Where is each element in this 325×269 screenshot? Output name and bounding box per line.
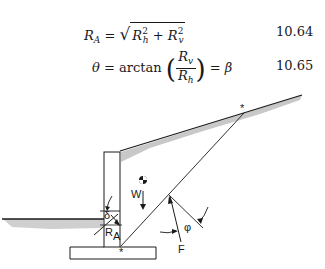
wall-footing bbox=[70, 247, 156, 259]
resultant-label: R bbox=[105, 226, 113, 238]
weight-arrowhead-icon bbox=[140, 204, 146, 210]
resultant-sub-label: A bbox=[113, 230, 121, 242]
crest-marker: * bbox=[240, 102, 245, 114]
weight-label: W bbox=[131, 188, 142, 200]
delta-label: δ bbox=[104, 209, 110, 221]
phi-label: φ bbox=[184, 221, 191, 233]
force-label: F bbox=[178, 243, 185, 255]
heel-marker: * bbox=[119, 246, 124, 258]
retaining-wall-diagram: * * W δ R A φ F bbox=[0, 0, 325, 269]
backfill-surface-line bbox=[120, 95, 302, 151]
front-soil-shading bbox=[3, 219, 103, 229]
backfill-shading bbox=[121, 95, 302, 162]
